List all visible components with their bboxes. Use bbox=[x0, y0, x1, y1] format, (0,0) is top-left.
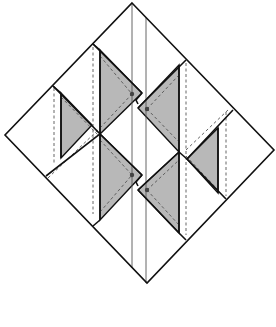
marker-dot bbox=[130, 173, 134, 177]
shaded-triangle-upper-right bbox=[138, 65, 179, 152]
marker-dot bbox=[145, 188, 149, 192]
shaded-triangle-upper-left bbox=[100, 50, 142, 134]
shaded-triangle-lower-right bbox=[138, 152, 179, 233]
quilt-fold-diagram bbox=[0, 0, 276, 327]
outer-diamond bbox=[5, 3, 274, 283]
marker-dot bbox=[145, 107, 149, 111]
marker-dot bbox=[130, 92, 134, 96]
shaded-triangle-left-small bbox=[61, 93, 92, 158]
outline-lines bbox=[5, 3, 274, 283]
shaded-triangle-right-small bbox=[187, 128, 218, 193]
shaded-triangle-lower-left bbox=[100, 134, 142, 220]
center-strip-lines bbox=[132, 3, 146, 283]
